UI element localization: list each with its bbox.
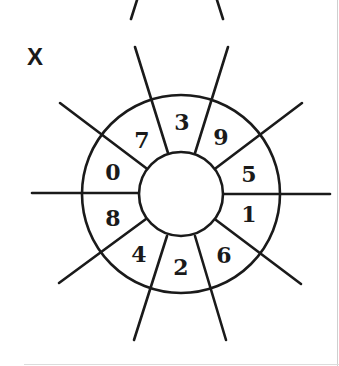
sector-number: 5 — [241, 161, 256, 187]
previous-figure-spoke-left — [131, 0, 137, 19]
sector-number: 4 — [131, 241, 146, 267]
sector-number: 9 — [213, 124, 228, 150]
spoke-left-upper-diagonal — [60, 103, 146, 168]
sector-number: 6 — [216, 242, 231, 268]
sector-number: 0 — [105, 159, 120, 185]
sector-number: 2 — [173, 254, 188, 280]
sector-number: 8 — [105, 205, 120, 231]
sector-number: 7 — [134, 127, 149, 153]
diagram-canvas: X 7 3 9 0 5 8 1 — [0, 0, 339, 366]
sector-number: 1 — [241, 201, 256, 227]
spoke-right-upper-diagonal — [216, 103, 302, 168]
sector-number: 3 — [174, 109, 189, 135]
number-wheel: 7 3 9 0 5 8 1 4 2 6 — [0, 0, 339, 366]
previous-figure-spoke-right — [217, 0, 223, 19]
inner-circle — [139, 152, 223, 236]
